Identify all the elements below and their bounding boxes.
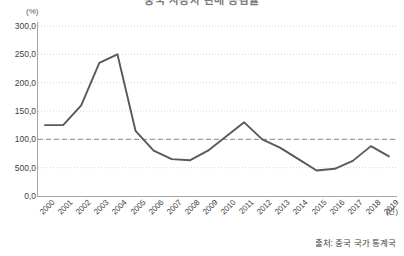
y-tick-label: 100,0 [0,134,36,144]
plot-svg [38,26,396,196]
x-tick-label: 2018 [364,198,382,216]
x-axis-tick-labels: 2000200120022003200420052006200720082009… [38,198,396,232]
y-tick-label: 250,0 [0,49,36,59]
x-tick-label: 2014 [291,198,309,216]
x-tick-label: 2000 [38,198,56,216]
series-line [45,54,389,170]
y-tick-label: 150,0 [0,106,36,116]
x-tick-label: 2009 [201,198,219,216]
x-tick-label: 2017 [346,198,364,216]
y-axis-tick-labels: 0,0500,0100,0150,0200,0250,0300,0 [0,0,36,256]
x-tick-label: 2006 [147,198,165,216]
y-tick-label: 200,0 [0,78,36,88]
x-tick-label: 2001 [56,198,74,216]
x-tick-label: 2004 [110,198,128,216]
x-tick-label: 2015 [310,198,328,216]
x-tick-label: 2016 [328,198,346,216]
gridlines [38,26,396,168]
source-note: 출처: 중국 국가 통계국 [315,236,396,248]
line-chart: 중국 자동차 판매 증감률 (%) 0,0500,0100,0150,0200,… [0,0,404,256]
x-tick-label: 2005 [128,198,146,216]
x-tick-label: 2008 [183,198,201,216]
x-tick-label: 2002 [74,198,92,216]
x-axis-line [37,196,397,197]
data-series [45,54,389,170]
x-axis-unit-label: (년) [386,205,398,216]
y-tick-label: 0,0 [0,191,36,201]
x-tick-label: 2010 [219,198,237,216]
y-tick-label: 300,0 [0,21,36,31]
x-tick-label: 2012 [255,198,273,216]
x-tick-label: 2013 [273,198,291,216]
x-tick-label: 2011 [238,198,256,216]
chart-title: 중국 자동차 판매 증감률 [0,0,404,7]
y-tick-label: 500,0 [0,163,36,173]
plot-area [38,26,396,196]
x-tick-label: 2007 [165,198,183,216]
x-tick-label: 2003 [92,198,110,216]
